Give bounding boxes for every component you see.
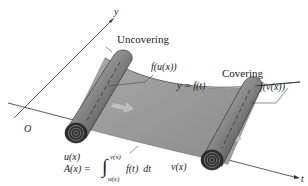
area-formula: A(x) = ∫ v(x) u(x) f(t) dt bbox=[64, 161, 164, 185]
right-position-label: v(x) bbox=[171, 162, 187, 172]
right-height-label: f(v(x)) bbox=[260, 82, 285, 92]
curve-label: y = f(t) bbox=[177, 81, 205, 91]
origin-label: O bbox=[24, 124, 31, 134]
uncovering-caption: Uncovering bbox=[117, 34, 169, 45]
integral-sign: ∫ bbox=[102, 155, 107, 178]
formula-lhs: A(x) = bbox=[64, 163, 90, 174]
formula-integrand: f(t) dt bbox=[126, 163, 151, 174]
formula-lower-limit: u(x) bbox=[108, 175, 119, 183]
covering-caption: Covering bbox=[222, 68, 263, 79]
y-axis-label: y bbox=[114, 7, 118, 17]
t-axis-label: t bbox=[301, 174, 304, 184]
left-height-label: f(u(x)) bbox=[151, 62, 177, 72]
moving-area-diagram bbox=[0, 0, 308, 186]
formula-upper-limit: v(x) bbox=[110, 153, 121, 161]
